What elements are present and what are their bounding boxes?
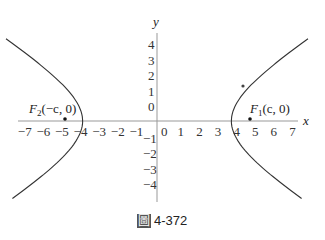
x-tick-label: 4 xyxy=(233,124,240,139)
x-tick-label: −3 xyxy=(92,124,106,139)
caption-mark: 圖 xyxy=(137,214,151,228)
focus-f2-point xyxy=(63,117,67,121)
hyperbola-left-branch xyxy=(6,39,83,199)
x-tick-label: 7 xyxy=(289,124,296,139)
f1-label: F1(c, 0) xyxy=(249,101,290,118)
x-tick-label: 5 xyxy=(252,124,259,139)
x-axis-label: x xyxy=(302,113,309,128)
curve-point xyxy=(241,84,244,87)
focus-f1-point xyxy=(248,117,252,121)
hyperbola-chart: −7−6−5−4−3−2−101234567 −4−3−2−101234 x y… xyxy=(0,0,325,240)
figure-caption: 圖 4-372 xyxy=(137,213,187,228)
y-tick-label: 2 xyxy=(148,68,155,83)
x-tick-label: −2 xyxy=(111,124,125,139)
y-tick-label: −4 xyxy=(143,177,157,192)
x-tick-label: 3 xyxy=(215,124,222,139)
x-tick-label: −7 xyxy=(18,124,32,139)
y-tick-label: 4 xyxy=(148,37,155,52)
caption-text: 4-372 xyxy=(154,213,187,228)
x-tick-label: −6 xyxy=(36,124,50,139)
f2-label: F2(−c, 0) xyxy=(28,101,76,118)
y-tick-label: −2 xyxy=(143,146,157,161)
y-tick-label: 3 xyxy=(148,53,155,68)
x-tick-label: 0 xyxy=(161,124,168,139)
y-tick-label: 0 xyxy=(148,99,155,114)
y-tick-label: −3 xyxy=(143,162,157,177)
y-tick-label: 1 xyxy=(148,84,155,99)
y-axis-label: y xyxy=(151,14,159,29)
x-tick-label: 2 xyxy=(196,124,203,139)
y-tick-labels: −4−3−2−101234 xyxy=(143,37,157,192)
y-tick-label: −1 xyxy=(143,131,157,146)
x-tick-label: −5 xyxy=(55,124,69,139)
x-tick-label: 6 xyxy=(271,124,278,139)
x-tick-label: −1 xyxy=(129,124,143,139)
x-tick-label: 1 xyxy=(178,124,185,139)
hyperbola-right-branch xyxy=(231,39,308,199)
